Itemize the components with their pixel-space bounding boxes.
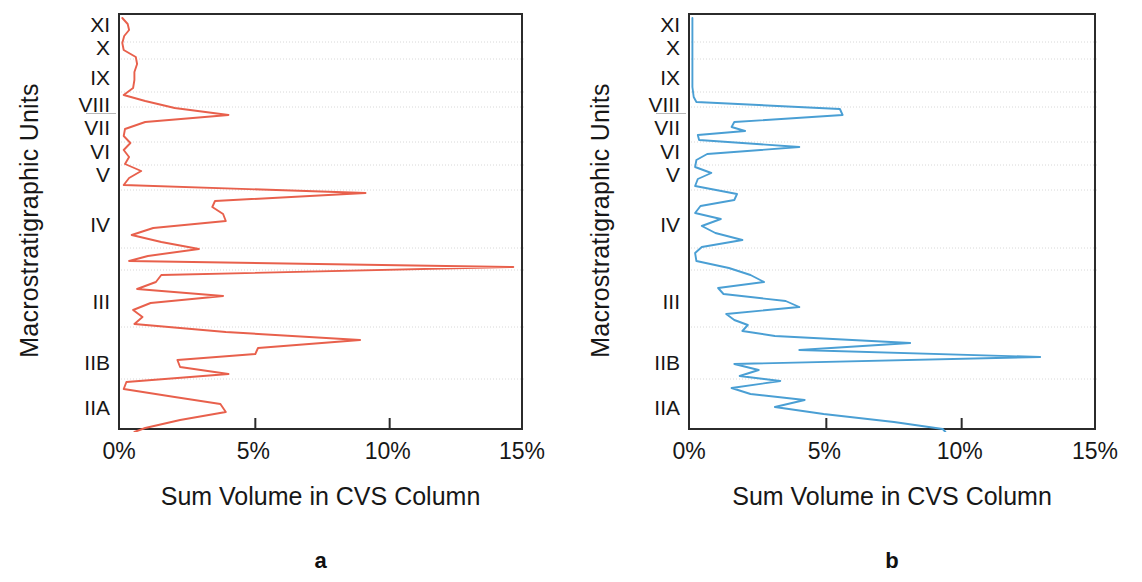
y-tick-label: V: [96, 163, 110, 187]
y-tick-label: VII: [84, 116, 110, 140]
y-tick-label: III: [662, 290, 680, 314]
y-tick-label: IIB: [84, 351, 110, 375]
panel-b: Macrostratigraphic Units XIXIXVIIIVIIVIV…: [571, 0, 1142, 582]
y-tick-label: X: [96, 36, 110, 60]
panel-b-plot-area: [688, 13, 1096, 430]
x-tick-label: 5%: [237, 438, 270, 465]
panel-a-y-axis-title: Macrostratigraphic Units: [6, 0, 52, 440]
panel-a-letter: a: [118, 548, 523, 574]
vIII-leader-line: [656, 107, 686, 114]
y-tick-label: IIA: [84, 396, 110, 420]
y-tick-label: IX: [90, 66, 110, 90]
y-tick-label: III: [92, 290, 110, 314]
y-tick-label: IV: [660, 213, 680, 237]
x-tick-label: 10%: [365, 438, 411, 465]
x-tick-label: 0%: [102, 438, 135, 465]
y-tick-label: VI: [90, 140, 110, 164]
x-tick-label: 15%: [1072, 438, 1118, 465]
y-tick-label: IV: [90, 213, 110, 237]
panel-b-y-axis-title: Macrostratigraphic Units: [577, 0, 623, 440]
y-tick-label: IX: [660, 66, 680, 90]
y-tick-label: V: [666, 163, 680, 187]
panel-a-series-canvas: [120, 15, 525, 432]
x-tick-label: 15%: [499, 438, 545, 465]
panel-a-plot-area: [118, 13, 523, 430]
data-series-line: [122, 18, 513, 432]
y-tick-label: IIA: [654, 396, 680, 420]
panel-b-series-canvas: [690, 15, 1098, 432]
two-panel-figure: Macrostratigraphic Units XIXIXVIIIVIIVIV…: [0, 0, 1142, 582]
y-tick-label: XI: [90, 13, 110, 37]
panel-b-x-axis-title: Sum Volume in CVS Column: [688, 482, 1096, 511]
panel-a: Macrostratigraphic Units XIXIXVIIIVIIVIV…: [0, 0, 571, 582]
vIII-leader-line: [86, 107, 116, 114]
y-tick-label: VI: [660, 140, 680, 164]
y-tick-label: XI: [660, 13, 680, 37]
y-tick-label: X: [666, 36, 680, 60]
panel-b-letter: b: [688, 548, 1096, 574]
y-tick-label: IIB: [654, 351, 680, 375]
data-series-line: [692, 18, 1040, 432]
x-tick-label: 5%: [808, 438, 841, 465]
y-tick-label: VII: [654, 116, 680, 140]
panel-a-x-axis-title: Sum Volume in CVS Column: [118, 482, 523, 511]
x-tick-label: 0%: [672, 438, 705, 465]
x-tick-label: 10%: [937, 438, 983, 465]
